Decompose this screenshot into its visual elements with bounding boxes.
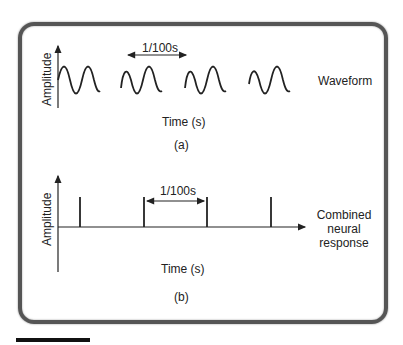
scale-bar [16,338,90,342]
x-axis-label-a: Time (s) [162,115,206,129]
y-axis-label-b: Amplitude [40,188,54,246]
diagram-graphics [0,0,403,345]
interval-label-b: 1/100s [160,184,196,198]
label-line-2: neural [312,222,376,236]
x-axis-label-b: Time (s) [161,262,205,276]
label-line-1: Combined [312,208,376,222]
caption-a: (a) [174,138,189,152]
interval-label-a: 1/100s [142,41,178,55]
y-axis-label-a: Amplitude [40,48,54,106]
label-line-3: response [312,236,376,250]
waveform-label: Waveform [318,74,372,88]
combined-neural-response-label: Combined neural response [312,208,376,250]
waveform-groups [58,67,290,94]
caption-b: (b) [174,290,189,304]
